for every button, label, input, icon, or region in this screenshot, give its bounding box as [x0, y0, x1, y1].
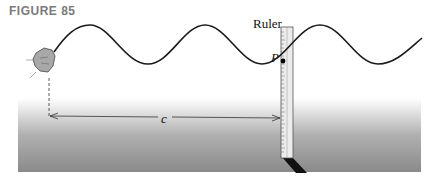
diagram-canvas — [0, 0, 443, 185]
ruler — [281, 27, 293, 158]
ruler-label: Ruler — [253, 16, 282, 32]
rock-icon — [26, 48, 55, 78]
distance-c-label: c — [161, 111, 167, 127]
point-p-label: P — [271, 50, 279, 66]
ground-block — [18, 98, 421, 172]
point-p-marker — [281, 59, 286, 64]
sinusoidal-wave — [54, 25, 422, 64]
